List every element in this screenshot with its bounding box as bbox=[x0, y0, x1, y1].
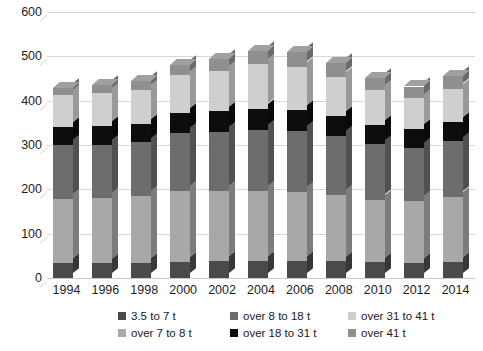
bar-column[interactable] bbox=[404, 87, 424, 278]
legend-label: over 31 to 41 t bbox=[361, 310, 435, 322]
bar-segment[interactable] bbox=[92, 198, 112, 264]
bar-segment[interactable] bbox=[131, 196, 151, 263]
stacked-bar-chart: 0100200300400500600 19941996199820002002… bbox=[0, 0, 483, 351]
legend-label: over 18 to 31 t bbox=[243, 327, 317, 339]
y-axis-tick-label: 300 bbox=[2, 138, 42, 152]
bar-segment[interactable] bbox=[53, 199, 73, 263]
bar-column[interactable] bbox=[443, 76, 463, 278]
bar-segment[interactable] bbox=[443, 122, 463, 142]
bar-column[interactable] bbox=[53, 88, 73, 278]
legend-item[interactable]: over 7 to 8 t bbox=[118, 325, 230, 340]
bar-stack bbox=[53, 88, 73, 278]
bar-column[interactable] bbox=[92, 85, 112, 278]
bar-segment[interactable] bbox=[92, 126, 112, 145]
bar-segment[interactable] bbox=[365, 200, 385, 263]
bar-segment[interactable] bbox=[365, 90, 385, 125]
bar-segment[interactable] bbox=[248, 191, 268, 261]
bar-segment[interactable] bbox=[404, 148, 424, 201]
bar-segment[interactable] bbox=[404, 98, 424, 129]
bar-segment[interactable] bbox=[53, 88, 73, 95]
bar-segment[interactable] bbox=[443, 141, 463, 196]
legend-swatch bbox=[348, 312, 356, 320]
bar-segment[interactable] bbox=[404, 263, 424, 278]
bar-segment[interactable] bbox=[53, 263, 73, 278]
legend-item[interactable]: over 8 to 18 t bbox=[230, 308, 348, 323]
bar-segment[interactable] bbox=[131, 263, 151, 278]
bar-segment[interactable] bbox=[365, 144, 385, 199]
legend-item[interactable]: over 31 to 41 t bbox=[348, 308, 458, 323]
bar-column[interactable] bbox=[170, 65, 190, 278]
bar-segment[interactable] bbox=[287, 110, 307, 131]
bar-segment[interactable] bbox=[404, 201, 424, 263]
bar-segment[interactable] bbox=[131, 90, 151, 124]
bar-segment[interactable] bbox=[443, 89, 463, 122]
bar-segment[interactable] bbox=[326, 261, 346, 278]
bar-column[interactable] bbox=[131, 81, 151, 278]
legend-item[interactable]: 3.5 to 7 t bbox=[118, 308, 230, 323]
bar-stack bbox=[365, 78, 385, 278]
bar-segment[interactable] bbox=[404, 87, 424, 99]
bar-segment[interactable] bbox=[287, 67, 307, 110]
bar-segment[interactable] bbox=[92, 93, 112, 126]
bar-segment[interactable] bbox=[170, 113, 190, 133]
bar-column[interactable] bbox=[209, 59, 229, 278]
bar-segment[interactable] bbox=[287, 52, 307, 66]
bar-segment[interactable] bbox=[443, 262, 463, 278]
legend-item[interactable]: over 18 to 31 t bbox=[230, 325, 348, 340]
bar-segment[interactable] bbox=[131, 142, 151, 196]
bar-segment[interactable] bbox=[53, 95, 73, 127]
bar-segment[interactable] bbox=[326, 77, 346, 116]
bar-segment[interactable] bbox=[326, 195, 346, 262]
bar-segment[interactable] bbox=[209, 191, 229, 261]
bar-stack bbox=[404, 87, 424, 278]
bar-segment[interactable] bbox=[365, 125, 385, 145]
bar-segment[interactable] bbox=[53, 145, 73, 199]
bar-column[interactable] bbox=[365, 78, 385, 278]
bar-segment[interactable] bbox=[209, 71, 229, 112]
legend-label: 3.5 to 7 t bbox=[131, 310, 176, 322]
bar-column[interactable] bbox=[287, 52, 307, 278]
bar-segment[interactable] bbox=[170, 133, 190, 191]
bar-segment[interactable] bbox=[170, 75, 190, 113]
chart-legend: 3.5 to 7 tover 8 to 18 tover 31 to 41 to… bbox=[118, 308, 468, 340]
bar-segment[interactable] bbox=[170, 262, 190, 278]
bar-segment[interactable] bbox=[248, 130, 268, 191]
bar-segment[interactable] bbox=[92, 263, 112, 278]
bar-segment[interactable] bbox=[248, 64, 268, 108]
bar-segment[interactable] bbox=[53, 127, 73, 145]
bar-segment[interactable] bbox=[92, 145, 112, 198]
bar-segment[interactable] bbox=[326, 136, 346, 195]
bar-segment[interactable] bbox=[248, 51, 268, 64]
bar-stack bbox=[287, 52, 307, 278]
legend-swatch bbox=[118, 329, 126, 337]
bar-segment[interactable] bbox=[365, 262, 385, 278]
bar-segment[interactable] bbox=[209, 111, 229, 132]
bar-stack bbox=[209, 59, 229, 278]
x-axis-tick-label: 2014 bbox=[429, 283, 483, 297]
bar-segment[interactable] bbox=[92, 85, 112, 93]
bar-segment[interactable] bbox=[170, 65, 190, 76]
bar-column[interactable] bbox=[248, 51, 268, 278]
bar-segment[interactable] bbox=[248, 109, 268, 130]
bar-segment[interactable] bbox=[209, 59, 229, 71]
legend-item[interactable]: over 41 t bbox=[348, 325, 458, 340]
bar-segment[interactable] bbox=[326, 63, 346, 76]
bar-segment[interactable] bbox=[443, 76, 463, 88]
bar-column[interactable] bbox=[326, 63, 346, 278]
bar-segment[interactable] bbox=[287, 261, 307, 278]
gridline bbox=[47, 278, 475, 279]
bar-segment[interactable] bbox=[326, 116, 346, 136]
bar-segment[interactable] bbox=[209, 132, 229, 191]
bar-segment[interactable] bbox=[248, 261, 268, 278]
y-axis-tick-label: 200 bbox=[2, 182, 42, 196]
y-axis-tick-label: 0 bbox=[2, 271, 42, 285]
bar-segment[interactable] bbox=[131, 81, 151, 90]
bar-segment[interactable] bbox=[443, 197, 463, 262]
bar-segment[interactable] bbox=[131, 124, 151, 143]
bar-segment[interactable] bbox=[404, 129, 424, 148]
bar-segment[interactable] bbox=[170, 191, 190, 262]
bar-segment[interactable] bbox=[209, 261, 229, 278]
bar-segment[interactable] bbox=[287, 192, 307, 261]
bar-segment[interactable] bbox=[365, 78, 385, 90]
bar-segment[interactable] bbox=[287, 131, 307, 192]
